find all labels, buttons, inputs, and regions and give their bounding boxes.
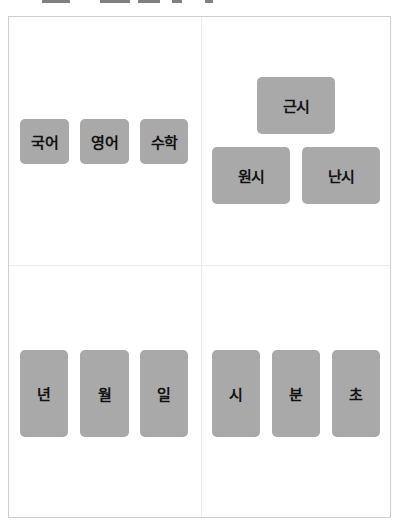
vertical-divider (201, 17, 202, 517)
card-day[interactable]: 일 (140, 350, 188, 437)
header-fragment (205, 0, 213, 3)
header-fragment (42, 0, 70, 3)
cropped-header-text (0, 0, 400, 6)
card-second[interactable]: 초 (332, 350, 380, 437)
worksheet-grid: 국어 영어 수학 근시 원시 난시 년 월 일 시 분 초 (8, 16, 391, 518)
card-hyperopia[interactable]: 원시 (212, 147, 290, 204)
card-myopia[interactable]: 근시 (257, 77, 335, 134)
card-hour[interactable]: 시 (212, 350, 260, 437)
card-astigmatism[interactable]: 난시 (302, 147, 380, 204)
card-month[interactable]: 월 (80, 350, 129, 437)
header-fragment (172, 0, 182, 3)
card-korean[interactable]: 국어 (20, 119, 69, 164)
card-math[interactable]: 수학 (140, 119, 188, 164)
card-year[interactable]: 년 (20, 350, 68, 437)
card-minute[interactable]: 분 (272, 350, 320, 437)
header-fragment (138, 0, 160, 3)
card-english[interactable]: 영어 (80, 119, 129, 164)
horizontal-divider (9, 265, 390, 266)
header-fragment (100, 0, 130, 3)
